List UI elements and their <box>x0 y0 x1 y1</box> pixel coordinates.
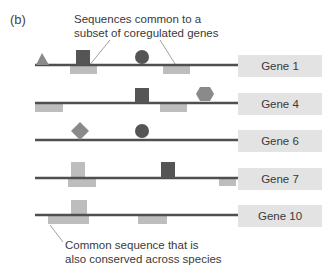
conserved-sequence-rect <box>48 215 89 224</box>
gene-label-box-10: Gene 10 <box>238 205 322 227</box>
pointer-line-coregulated-2 <box>160 40 177 67</box>
gene-label-box-4: Gene 4 <box>238 93 322 115</box>
gene-row-7 <box>35 162 238 187</box>
gene-row-6 <box>35 122 238 140</box>
square-element-icon <box>135 88 149 103</box>
gene-label-box-1: Gene 1 <box>238 55 322 77</box>
gene-row-1 <box>35 50 238 74</box>
square-element-icon <box>161 162 175 178</box>
conserved-sequence-rect <box>138 215 167 224</box>
annotation-conserved-line-1: Common sequence that is <box>65 238 222 252</box>
annotation-conserved: Common sequence that is also conserved a… <box>65 238 222 266</box>
pointer-line-conserved <box>50 225 63 242</box>
pointer-line-coregulated-1 <box>88 40 110 67</box>
gene-label-box-6: Gene 6 <box>238 130 322 152</box>
diamond-element-icon <box>71 122 89 140</box>
conserved-sequence-rect <box>160 103 187 112</box>
conserved-sequence-rect <box>35 103 63 112</box>
conserved-sequence-rect <box>163 65 190 74</box>
light-square-element-icon <box>71 200 87 215</box>
circle-element-icon <box>135 50 149 64</box>
gene-row-4 <box>35 87 238 112</box>
hexagon-element-icon <box>196 87 214 101</box>
gene-row-10 <box>35 200 238 224</box>
square-element-icon <box>76 50 90 65</box>
conserved-sequence-rect <box>68 178 96 187</box>
light-square-element-icon <box>71 162 85 178</box>
circle-element-icon <box>135 124 149 138</box>
annotation-conserved-line-2: also conserved across species <box>65 252 222 266</box>
triangle-element-icon <box>36 53 49 65</box>
gene-label-box-7: Gene 7 <box>238 168 322 190</box>
conserved-sequence-rect <box>70 65 97 74</box>
